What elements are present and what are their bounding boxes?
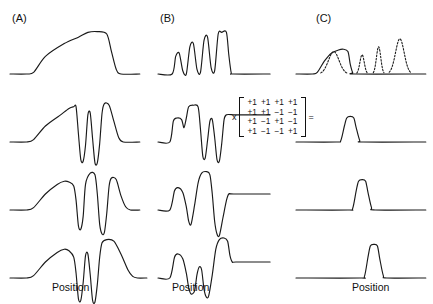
axis-label-position-a: Position <box>52 281 89 293</box>
trace-a-row1 <box>10 18 134 84</box>
trace-c-row1 <box>296 18 420 84</box>
matrix-row: +1−1−1+1 <box>246 127 300 137</box>
hadamard-matrix-table: +1+1+1+1+1+1−1−1+1−1+1−1+1−1−1+1 <box>246 98 300 136</box>
matrix-cell: −1 <box>259 127 272 137</box>
trace-a-row4 <box>10 222 134 288</box>
trace-c-row4 <box>296 222 420 288</box>
trace-a-row3 <box>10 154 134 220</box>
axis-label-position-b: Position <box>172 281 209 293</box>
matrix-cell: +1 <box>246 127 259 137</box>
hadamard-transform-figure: (A) (B) (C) x +1+1+1+1+1+1−1−1+1−1+1−1+1… <box>0 0 433 304</box>
trace-b-row1 <box>158 18 282 84</box>
trace-b-row4 <box>158 222 282 288</box>
multiply-operator: x <box>232 112 237 122</box>
trace-c-row2 <box>296 86 420 152</box>
axis-label-position-c: Position <box>352 281 389 293</box>
trace-b-row3 <box>158 154 282 220</box>
trace-c-row3 <box>296 154 420 220</box>
trace-a-row2 <box>10 86 134 152</box>
matrix-cell: −1 <box>272 127 285 137</box>
